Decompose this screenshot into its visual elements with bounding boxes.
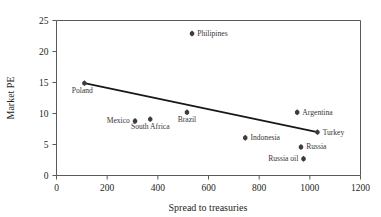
chart-figure: 0510152025 020040060080010001200 PolandM…	[0, 0, 381, 217]
y-tick-label: 25	[39, 16, 49, 26]
point-label: Mexico	[107, 116, 130, 125]
y-tick-label: 5	[44, 140, 49, 150]
y-tick-label: 0	[44, 171, 49, 181]
x-tick-label: 1200	[351, 183, 370, 193]
y-tick-label: 10	[39, 109, 49, 119]
y-tick-label: 20	[39, 47, 49, 57]
point-label: Russia oil	[268, 154, 298, 163]
x-tick-label: 1000	[300, 183, 319, 193]
y-tick-label: 15	[39, 78, 49, 88]
point-label: Turkey	[323, 128, 345, 137]
point-label: Brazil	[178, 115, 197, 124]
point-label: Indonesia	[250, 133, 280, 142]
y-axis-title: Market PE	[5, 76, 16, 119]
x-tick-label: 0	[54, 183, 59, 193]
point-label: Argentina	[302, 108, 333, 117]
point-label: South Africa	[131, 122, 170, 131]
x-tick-label: 800	[252, 183, 267, 193]
x-tick-label: 200	[100, 183, 115, 193]
x-tick-label: 400	[151, 183, 166, 193]
point-label: Philipines	[197, 29, 227, 38]
x-tick-label: 600	[201, 183, 216, 193]
scatter-plot-svg: 0510152025 020040060080010001200 PolandM…	[0, 0, 381, 217]
x-axis-title: Spread to treasuries	[169, 202, 248, 213]
point-label: Poland	[72, 86, 93, 95]
point-label: Russia	[306, 142, 327, 151]
